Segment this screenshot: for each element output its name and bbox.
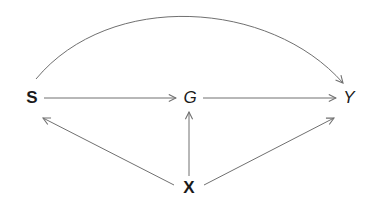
- node-s: S: [26, 89, 37, 106]
- causal-diagram: S G Y X: [0, 0, 373, 210]
- node-y: Y: [343, 89, 354, 106]
- edge-s-to-y: [36, 16, 343, 83]
- node-x: X: [183, 179, 194, 196]
- edge-x-to-y: [204, 118, 334, 185]
- edge-x-to-s: [43, 118, 174, 185]
- node-g: G: [183, 89, 196, 106]
